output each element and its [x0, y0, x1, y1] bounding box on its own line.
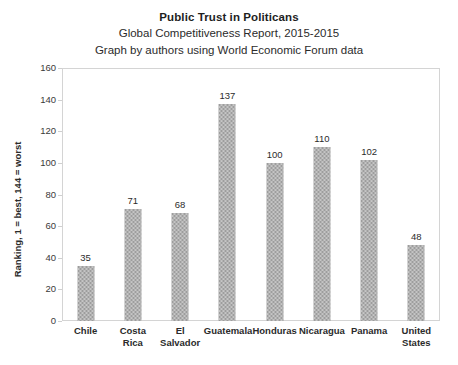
bar-value-label: 137 [219, 90, 235, 101]
bar [219, 104, 236, 321]
bar-slot: 100 [251, 68, 298, 321]
bar-value-label: 110 [314, 133, 329, 144]
bar [408, 245, 425, 321]
bar-slot: 48 [393, 68, 440, 321]
y-tick-label: 60 [30, 221, 56, 231]
bar-value-label: 48 [411, 231, 422, 242]
chart-subtitle: Global Competitiveness Report, 2015-2015 [0, 25, 458, 42]
bar-slot: 35 [62, 68, 109, 321]
y-axis-title: Ranking, 1 = best, 144 = worst [12, 75, 23, 345]
bar-slot: 137 [204, 68, 251, 321]
y-tick-label: 20 [30, 284, 56, 294]
bar [77, 266, 94, 321]
bar [313, 147, 330, 321]
bar [124, 209, 141, 321]
x-tick-label: Guatemala [204, 325, 251, 337]
bar-value-label: 71 [128, 195, 139, 206]
chart-source-note: Graph by authors using World Economic Fo… [0, 42, 458, 59]
bar-slot: 102 [346, 68, 393, 321]
bar-slot: 71 [109, 68, 156, 321]
x-tick-label: Chile [62, 325, 109, 337]
bar [361, 160, 378, 321]
bar-value-label: 100 [267, 149, 283, 160]
y-tick-label: 160 [30, 63, 56, 73]
y-tick-label: 100 [30, 158, 56, 168]
chart-title-block: Public Trust in Politicans Global Compet… [0, 10, 458, 59]
x-axis: ChileCosta RicaEl SalvadorGuatemalaHondu… [62, 325, 440, 363]
x-tick-label: El Salvador [157, 325, 204, 349]
x-tick-label: Costa Rica [109, 325, 156, 349]
y-tick-label: 0 [30, 316, 56, 326]
x-tick-label: Panama [346, 325, 393, 337]
y-tick-label: 40 [30, 253, 56, 263]
x-tick-label: Honduras [251, 325, 298, 337]
y-tick-label: 80 [30, 190, 56, 200]
bar-value-label: 35 [80, 252, 91, 263]
x-tick-label: Nicaragua [298, 325, 345, 337]
bar [172, 213, 189, 321]
bar-value-label: 102 [361, 146, 377, 157]
bar-series: 35716813710011010248 [62, 68, 440, 321]
page-title: Public Trust in Politicans [0, 10, 458, 25]
bar [266, 163, 283, 321]
y-tick-label: 120 [30, 126, 56, 136]
bar-slot: 68 [157, 68, 204, 321]
y-axis: Ranking, 1 = best, 144 = worst 020406080… [0, 68, 56, 321]
bar-slot: 110 [298, 68, 345, 321]
y-tick-mark [58, 321, 62, 322]
x-tick-label: United States [393, 325, 440, 349]
y-tick-label: 140 [30, 95, 56, 105]
bar-value-label: 68 [175, 199, 186, 210]
